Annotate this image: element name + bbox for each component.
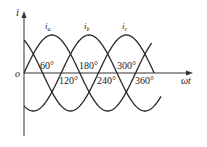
tick-label-60: 60° <box>40 60 54 71</box>
series-label-ic: ic <box>122 21 128 32</box>
tick-label-360: 360° <box>135 75 154 86</box>
tick-label-240: 240° <box>97 75 116 86</box>
origin-label: o <box>15 68 20 79</box>
x-axis-label: ωt <box>181 75 191 86</box>
three-phase-current-diagram: i ωt o 60° 180° 300° 120° 240° 360° ia i… <box>0 0 207 147</box>
tick-label-300: 300° <box>117 60 136 71</box>
y-axis-label: i <box>16 6 19 18</box>
series-label-ia: ia <box>45 21 51 32</box>
tick-label-120: 120° <box>59 75 78 86</box>
series-label-ib: ib <box>84 21 90 32</box>
tick-label-180: 180° <box>79 60 98 71</box>
y-axis-arrow-icon <box>22 11 27 18</box>
